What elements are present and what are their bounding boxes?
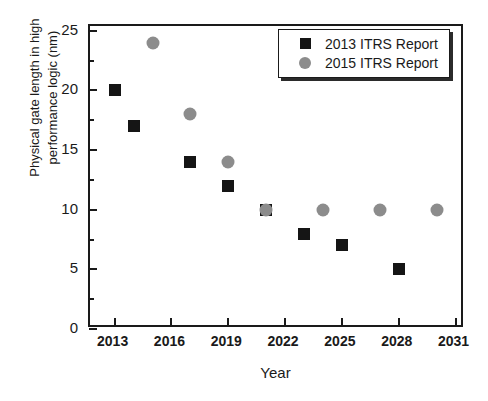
y-tick-20 — [89, 89, 97, 91]
y-tick-minor — [89, 179, 94, 181]
y-tick-minor — [89, 119, 94, 121]
legend-entry-1: 2015 ITRS Report — [285, 53, 443, 72]
legend-label-1: 2015 ITRS Report — [325, 55, 438, 71]
x-tick-2022 — [284, 318, 286, 326]
y-tick-5 — [89, 268, 97, 270]
legend-label-0: 2013 ITRS Report — [325, 36, 438, 52]
x-tick-label-2031: 2031 — [424, 334, 484, 348]
y-tick-10 — [89, 209, 97, 211]
figure-caption — [4, 388, 484, 399]
y-tick-minor — [89, 60, 94, 62]
data-point-s0-1 — [128, 120, 140, 132]
data-point-s1-2 — [222, 155, 235, 168]
y-axis-title-line2: performance logic (nm) — [44, 0, 62, 228]
y-axis-title-line1: Physical gate length in high — [26, 0, 44, 228]
y-tick-15 — [89, 149, 97, 151]
data-point-s0-3 — [222, 180, 234, 192]
data-point-s1-4 — [316, 203, 329, 216]
x-tick-2019 — [227, 318, 229, 326]
y-axis-title: Physical gate length in high performance… — [26, 0, 61, 228]
figure-scatter-chart: 0510152025 Physical gate length in high … — [0, 0, 488, 401]
data-point-s1-5 — [373, 203, 386, 216]
y-tick-label-5: 5 — [38, 260, 78, 275]
y-tick-25 — [89, 30, 97, 32]
legend-swatch-circle-icon — [285, 57, 325, 69]
data-point-s1-6 — [430, 203, 443, 216]
data-point-s1-1 — [184, 108, 197, 121]
data-point-s0-5 — [298, 228, 310, 240]
legend: 2013 ITRS Report 2015 ITRS Report — [278, 29, 450, 78]
data-point-s0-7 — [393, 263, 405, 275]
data-point-s1-3 — [260, 203, 273, 216]
y-tick-0 — [89, 328, 97, 330]
x-tick-2013 — [114, 318, 116, 326]
x-tick-label-2025: 2025 — [310, 334, 370, 348]
x-tick-2016 — [170, 318, 172, 326]
y-tick-label-0: 0 — [38, 320, 78, 335]
legend-swatch-square-icon — [285, 38, 325, 49]
x-tick-label-2028: 2028 — [367, 334, 427, 348]
y-tick-minor — [89, 239, 94, 241]
legend-entry-0: 2013 ITRS Report — [285, 34, 443, 53]
y-tick-minor — [89, 298, 94, 300]
x-tick-label-2022: 2022 — [253, 334, 313, 348]
plot-area: 2013 ITRS Report 2015 ITRS Report — [88, 24, 463, 327]
x-tick-2025 — [341, 318, 343, 326]
data-point-s0-2 — [184, 156, 196, 168]
x-tick-2031 — [455, 318, 457, 326]
data-point-s0-0 — [109, 84, 121, 96]
x-tick-label-2016: 2016 — [139, 334, 199, 348]
x-tick-label-2013: 2013 — [83, 334, 143, 348]
x-tick-2028 — [398, 318, 400, 326]
x-tick-label-2019: 2019 — [196, 334, 256, 348]
x-axis-title: Year — [88, 364, 463, 381]
data-point-s0-6 — [336, 239, 348, 251]
data-point-s1-0 — [146, 36, 159, 49]
